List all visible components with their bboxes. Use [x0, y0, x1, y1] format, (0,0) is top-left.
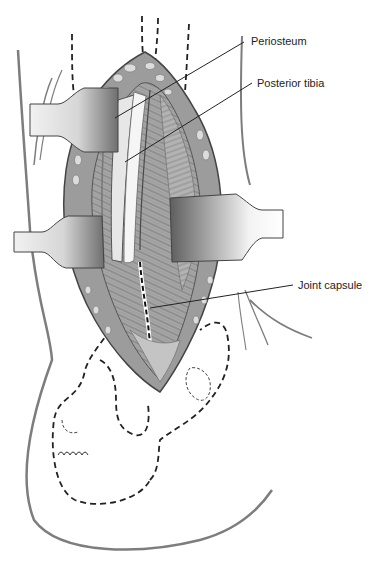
- label-periosteum: Periosteum: [251, 35, 307, 47]
- retractor-top-left: [30, 88, 118, 152]
- label-joint-capsule: Joint capsule: [298, 279, 362, 291]
- label-posterior-tibia: Posterior tibia: [257, 77, 324, 89]
- toe-squiggle: [58, 452, 88, 455]
- dashed-ankle-contours: [62, 368, 210, 433]
- retractor-right: [170, 194, 283, 262]
- retractor-bottom-left: [14, 216, 104, 268]
